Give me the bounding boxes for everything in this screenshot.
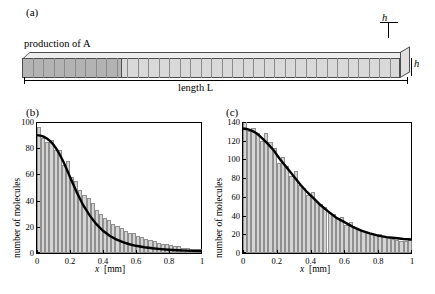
panel-c-chart: (c) number of molecules x [mm] time = 30… [218, 108, 435, 288]
panel-b-chart: (b) number of molecules x [mm] time = 10… [0, 108, 215, 288]
tube-diagram [22, 52, 412, 78]
y-tick-label: 100 [14, 117, 34, 127]
y-tick-label: 40 [14, 196, 34, 206]
tube-compartment [138, 58, 139, 78]
x-tick-label: 1 [190, 256, 214, 266]
y-tick [37, 227, 40, 228]
y-tick [37, 252, 40, 253]
y-tick [37, 174, 40, 175]
y-tick [243, 178, 246, 179]
tube-compartment [295, 58, 296, 78]
y-tick-label: 80 [220, 173, 240, 183]
tube-right-face [400, 46, 410, 78]
production-label: production of A [24, 38, 91, 49]
y-tick [243, 159, 246, 160]
tube-compartment [232, 58, 233, 78]
tube-compartment [106, 58, 107, 78]
x-tick-label: 0.4 [299, 256, 323, 266]
tube-compartment [201, 58, 202, 78]
tube-compartment [379, 58, 380, 78]
tube-compartment [33, 58, 34, 78]
tube-compartment [127, 58, 128, 78]
tube-compartment [369, 58, 370, 78]
panel-c-plot-area: 00.20.40.60.81020406080100120140 [242, 122, 412, 254]
tube-compartment [285, 58, 286, 78]
x-tick-label: 0.8 [157, 256, 181, 266]
tube-compartment [243, 58, 244, 78]
y-tick [37, 122, 40, 123]
y-tick-label: 40 [220, 211, 240, 221]
y-tick [37, 148, 40, 149]
y-tick-label: 0 [220, 248, 240, 258]
x-tick [201, 250, 202, 253]
tube-compartment [222, 58, 223, 78]
y-tick-label: 120 [220, 136, 240, 146]
x-tick-label: 0.6 [332, 256, 356, 266]
tube-compartment [75, 58, 76, 78]
h-right-tick [411, 58, 412, 76]
y-tick [37, 201, 40, 202]
tube-compartment [358, 58, 359, 78]
mean-curve [37, 122, 202, 253]
tube-compartment [253, 58, 254, 78]
tube-compartment [190, 58, 191, 78]
h-top-cap [380, 22, 398, 23]
tube-compartment [159, 58, 160, 78]
length-label: length L [178, 82, 213, 93]
y-tick-label: 60 [220, 192, 240, 202]
h-top-leader [388, 22, 389, 38]
x-tick [70, 250, 71, 253]
tube-compartment [85, 58, 86, 78]
mean-curve [243, 122, 412, 253]
x-tick [103, 250, 104, 253]
x-tick [344, 250, 345, 253]
length-arrow-left-cap [24, 77, 25, 84]
tube-compartment [64, 58, 65, 78]
tube-compartment [306, 58, 307, 78]
panel-a-label: (a) [26, 6, 38, 18]
y-tick-label: 0 [14, 248, 34, 258]
tube-compartment [390, 58, 391, 78]
tube-compartment [96, 58, 97, 78]
tube-compartment [327, 58, 328, 78]
tube-compartment [169, 58, 170, 78]
tube-compartment [148, 58, 149, 78]
tube-compartment [43, 58, 44, 78]
y-tick-label: 80 [14, 143, 34, 153]
tube-compartment [117, 58, 118, 78]
x-tick [277, 250, 278, 253]
tube-compartment [264, 58, 265, 78]
x-tick [136, 250, 137, 253]
tube-compartment [348, 58, 349, 78]
x-tick [311, 250, 312, 253]
panel-b-y-axis-title: number of molecules [12, 178, 22, 258]
x-tick [411, 250, 412, 253]
y-tick [243, 197, 246, 198]
y-tick [243, 252, 246, 253]
x-tick-label: 0.8 [366, 256, 390, 266]
panel-a-diagram: (a) production of A length L h h [0, 0, 435, 100]
length-arrow-right-cap [407, 77, 408, 84]
y-tick [243, 122, 246, 123]
x-tick-label: 0.6 [124, 256, 148, 266]
tube-production-region [22, 58, 122, 78]
tube-compartment [54, 58, 55, 78]
y-tick [243, 216, 246, 217]
x-tick-label: 1 [400, 256, 424, 266]
x-tick-label: 0.2 [58, 256, 82, 266]
x-tick [378, 250, 379, 253]
y-tick-label: 140 [220, 117, 240, 127]
tube-compartment [180, 58, 181, 78]
tube-compartment [211, 58, 212, 78]
x-tick-label: 0.2 [265, 256, 289, 266]
tube-compartment [337, 58, 338, 78]
tube-compartment [274, 58, 275, 78]
y-tick-label: 60 [14, 169, 34, 179]
y-tick [243, 234, 246, 235]
y-tick-label: 100 [220, 154, 240, 164]
y-tick [243, 141, 246, 142]
panel-b-plot-area: 00.20.40.60.81020406080100 [36, 122, 202, 254]
y-tick-label: 20 [220, 229, 240, 239]
h-right-label: h [414, 58, 419, 69]
x-tick-label: 0.4 [91, 256, 115, 266]
